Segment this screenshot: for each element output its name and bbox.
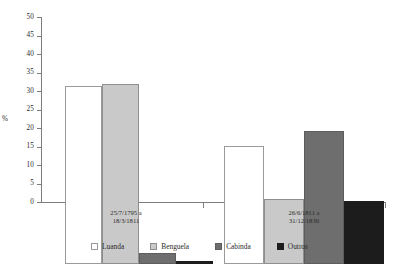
x-group-label-1: 25/7/1795 a 18/3/1811 — [66, 209, 186, 225]
legend-item-luanda: Luanda — [91, 243, 124, 250]
chart-legend: Luanda Benguela Cabinda Outros — [0, 243, 399, 250]
bar-group-2 — [224, 79, 386, 264]
bar-chart: % 50 45 40 35 30 25 20 15 10 5 0 25/7/17… — [0, 0, 399, 264]
y-tick-label-0: 0 — [18, 199, 34, 206]
y-tick-label-50: 50 — [18, 14, 34, 21]
y-tick-45 — [37, 36, 42, 37]
y-tick-label-10: 10 — [18, 162, 34, 169]
x-group-label-2: 26/6/1811 a 31/12/1830 — [244, 209, 364, 225]
benguela-swatch-icon — [150, 243, 157, 250]
legend-label-benguela: Benguela — [161, 243, 189, 250]
y-tick-50 — [37, 17, 42, 18]
y-tick-40 — [37, 54, 42, 55]
legend-item-benguela: Benguela — [150, 243, 189, 250]
y-tick-label-15: 15 — [18, 143, 34, 150]
x-axis-separator-tick — [203, 203, 204, 208]
y-axis-title: % — [2, 116, 8, 123]
x-group-label-1-line2: 18/3/1811 — [66, 217, 186, 225]
bar-group1-luanda — [65, 86, 102, 264]
legend-item-cabinda: Cabinda — [215, 243, 251, 250]
x-group-label-2-line1: 26/6/1811 a — [244, 209, 364, 217]
y-tick-label-45: 45 — [18, 32, 34, 39]
legend-label-luanda: Luanda — [102, 243, 124, 250]
luanda-swatch-icon — [91, 243, 98, 250]
y-tick-label-30: 30 — [18, 88, 34, 95]
bar-group1-benguela — [102, 84, 139, 264]
y-tick-label-20: 20 — [18, 125, 34, 132]
x-group-label-2-line2: 31/12/1830 — [244, 217, 364, 225]
y-tick-label-25: 25 — [18, 106, 34, 113]
legend-label-outros: Outros — [288, 243, 308, 250]
bar-group1-cabinda — [139, 253, 176, 264]
legend-item-outros: Outros — [277, 243, 308, 250]
y-tick-label-40: 40 — [18, 51, 34, 58]
y-tick-label-35: 35 — [18, 69, 34, 76]
bar-group-1 — [42, 79, 192, 264]
cabinda-swatch-icon — [215, 243, 222, 250]
outros-swatch-icon — [277, 243, 284, 250]
y-tick-35 — [37, 73, 42, 74]
y-tick-label-5: 5 — [18, 180, 34, 187]
x-group-label-1-line1: 25/7/1795 a — [66, 209, 186, 217]
legend-label-cabinda: Cabinda — [226, 243, 251, 250]
